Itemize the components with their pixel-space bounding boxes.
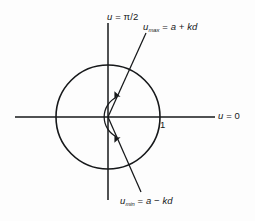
umin-label-value: a − kd [146,195,173,206]
umin-label: umin = a − kd [120,196,173,208]
vertical-axis-label-op: = [112,11,123,22]
horizontal-axis-label-op: = [223,110,234,121]
umax-label: umax = a + kd [143,22,197,34]
horizontal-axis-label-value: 0 [235,110,240,121]
umax-label-subscript: max [148,27,159,33]
umin-label-op: = [135,195,146,206]
vertical-axis-label-value: π/2 [124,11,139,22]
horizontal-axis-label: u = 0 [218,111,240,121]
diagram-svg [0,0,255,221]
umax-ray-line [108,33,146,117]
umax-label-op: = [160,21,171,32]
vertical-axis-label: u = π/2 [107,12,138,22]
unit-tick-label: 1 [160,120,165,130]
umin-ray-line [108,117,141,192]
umax-label-value: a + kd [171,21,198,32]
figure-canvas: u = π/2 u = 0 umax = a + kd umin = a − k… [0,0,255,221]
umin-label-subscript: min [125,201,134,207]
